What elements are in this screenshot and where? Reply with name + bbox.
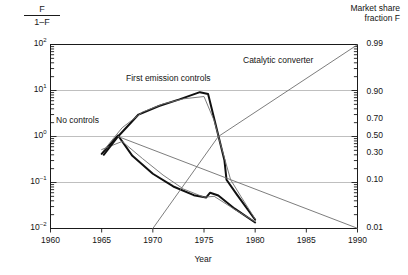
- annotation-label: No controls: [56, 116, 126, 125]
- y-axis-right-title-line1: Market share: [300, 4, 400, 13]
- y-axis-right-tick-label: 0.10: [367, 175, 403, 184]
- y-axis-right-tick-label: 0.30: [367, 148, 403, 157]
- plot-canvas: [0, 0, 408, 275]
- y-axis-right-title-line2: fraction F: [300, 14, 400, 23]
- grid-lines: [51, 91, 358, 183]
- x-axis-tick-label: 1980: [233, 236, 277, 245]
- x-axis-tick-label: 1965: [80, 236, 124, 245]
- y-axis-left-numerator: F: [24, 4, 60, 15]
- x-axis-title: Year: [163, 255, 243, 264]
- y-axis-right-tick-label: 0.01: [367, 223, 403, 232]
- annotation-label: Catalytic converter: [243, 56, 343, 65]
- x-axis-tick-label: 1985: [284, 236, 328, 245]
- y-axis-left-tick-label: 102: [3, 39, 47, 48]
- x-axis-tick-label: 1975: [182, 236, 226, 245]
- series-line: [102, 136, 256, 223]
- series-line: [104, 97, 255, 220]
- y-axis-left-tick-label: 101: [3, 85, 47, 94]
- y-axis-left-tick-label: 100: [3, 131, 47, 140]
- y-axis-left-denominator: 1–F: [24, 15, 60, 27]
- y-axis-left-title: F 1–F: [24, 4, 60, 27]
- x-axis-tick-label: 1990: [336, 236, 380, 245]
- y-axis-right-tick-label: 0.99: [367, 39, 403, 48]
- y-axis-left-tick-label: 10–2: [3, 223, 47, 232]
- y-axis-right-tick-label: 0.70: [367, 114, 403, 123]
- y-axis-right-tick-label: 0.50: [367, 131, 403, 140]
- y-axis-right-tick-label: 0.90: [367, 87, 403, 96]
- x-axis-tick-label: 1970: [131, 236, 175, 245]
- chart-figure: F 1–F Market share fraction F Year 10–21…: [0, 0, 408, 275]
- y-axis-left-tick-label: 10–1: [3, 177, 47, 186]
- x-axis-tick-label: 1960: [29, 236, 73, 245]
- annotation-label: First emission controls: [126, 74, 236, 83]
- series-line: [104, 92, 255, 220]
